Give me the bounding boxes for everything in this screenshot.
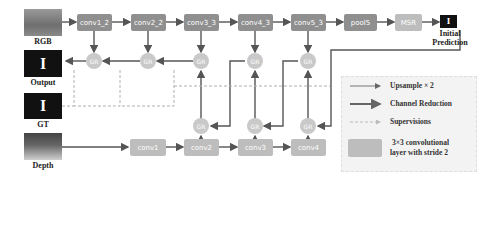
legend-conv-text-2: layer with stride 2 xyxy=(390,148,448,157)
legend-supervision-text: Supervisions xyxy=(390,117,431,126)
legend-conv-text-1: 3×3 convolutional xyxy=(392,138,449,147)
legend-conv-swatch xyxy=(348,139,382,157)
legend-upsample-text: Upsample × 2 xyxy=(390,81,434,90)
legend-channel-text: Channel Reduction xyxy=(390,99,452,108)
